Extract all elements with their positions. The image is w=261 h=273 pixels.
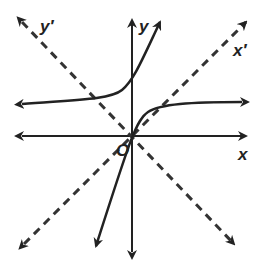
y-prime-label: y′: [40, 18, 54, 35]
x-axis-label: x: [238, 146, 247, 163]
origin-label: O: [116, 142, 129, 159]
x-prime-label: x′: [233, 42, 247, 59]
y-prime-axis: [22, 22, 234, 244]
y-axis-label: y: [139, 18, 148, 35]
rotated-axes-diagram: [0, 0, 261, 273]
